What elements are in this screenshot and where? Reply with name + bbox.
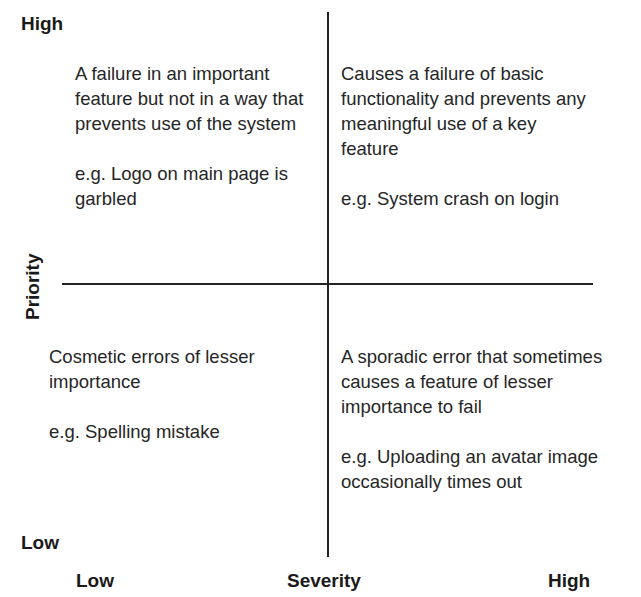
- quadrant-example: e.g. Spelling mistake: [49, 419, 319, 444]
- priority-low-label: Low: [21, 532, 59, 554]
- quadrant-description: Cosmetic errors of lesser importance: [49, 344, 319, 394]
- priority-high-label: High: [21, 13, 63, 35]
- severity-high-label: High: [548, 570, 590, 592]
- quadrant-low-priority-low-severity: Cosmetic errors of lesser importance e.g…: [49, 344, 319, 444]
- quadrant-high-priority-low-severity: A failure in an important feature but no…: [75, 61, 325, 211]
- quadrant-high-priority-high-severity: Causes a failure of basic functionality …: [341, 61, 591, 211]
- quadrant-description: A sporadic error that sometimes causes a…: [341, 344, 639, 419]
- quadrant-low-priority-high-severity: A sporadic error that sometimes causes a…: [341, 344, 639, 494]
- quadrant-example: e.g. System crash on login: [341, 186, 591, 211]
- quadrant-description: Causes a failure of basic functionality …: [341, 61, 591, 161]
- severity-low-label: Low: [76, 570, 114, 592]
- quadrant-description: A failure in an important feature but no…: [75, 61, 325, 136]
- quadrant-example: e.g. Logo on main page is garbled: [75, 161, 325, 211]
- priority-axis-title: Priority: [22, 253, 44, 320]
- severity-axis-title: Severity: [287, 570, 361, 592]
- horizontal-axis-divider: [62, 283, 593, 285]
- quadrant-example: e.g. Uploading an avatar image occasiona…: [341, 444, 639, 494]
